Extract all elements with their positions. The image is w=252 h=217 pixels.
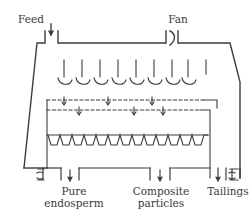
pure-endosperm-label-line2: endosperm [44, 197, 104, 209]
composite-particles-label-line1: Composite [128, 185, 194, 197]
fan-label: Fan [163, 13, 193, 25]
pure-endosperm-label-line1: Pure [44, 185, 104, 197]
feed-arrow-icon [49, 24, 53, 35]
outer-housing [24, 31, 240, 178]
composite-particles-label-line2: particles [128, 197, 194, 209]
tailings-label: Tailings [198, 185, 252, 197]
air-valves [58, 60, 206, 84]
collection-hoppers [47, 135, 208, 145]
fan-icon [170, 31, 175, 45]
feed-label: Feed [11, 13, 51, 25]
